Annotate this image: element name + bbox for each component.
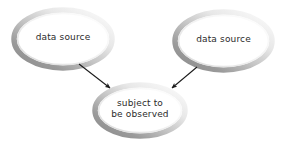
node-source-right-ring — [175, 12, 272, 70]
node-source-right[interactable] — [175, 12, 272, 70]
node-subject-ring — [95, 85, 185, 136]
node-source-left-ring — [14, 10, 112, 68]
edge-left-arrow — [79, 64, 110, 88]
edge-right-arrow — [172, 67, 197, 88]
node-subject[interactable] — [95, 85, 185, 136]
node-source-left[interactable] — [14, 10, 112, 68]
diagram-canvas — [0, 0, 284, 141]
